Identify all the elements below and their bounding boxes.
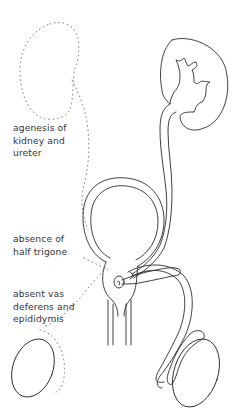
bladder-inner <box>91 186 158 260</box>
label-line: absence of <box>13 233 67 246</box>
verumontanum <box>114 276 124 288</box>
absent-kidney-outline <box>20 23 79 120</box>
urogenital-diagram: agenesis of kidney and ureter absence of… <box>0 0 239 417</box>
label-line: deferens and <box>13 301 75 314</box>
vas-deferens-inner <box>132 270 185 382</box>
label-absent-vas-epididymis: absent vas deferens and epididymis <box>13 288 75 326</box>
label-line: kidney and <box>13 135 67 148</box>
label-agenesis-kidney-ureter: agenesis of kidney and ureter <box>13 122 67 160</box>
bladder-outer <box>83 178 164 266</box>
prostate-left <box>103 262 118 316</box>
ejaculatory-duct-opening <box>117 281 120 285</box>
label-line: epididymis <box>13 313 75 326</box>
label-line: agenesis of <box>13 122 67 135</box>
diagram-drawing <box>0 0 239 417</box>
label-absence-half-trigone: absence of half trigone <box>13 233 67 258</box>
testis-left <box>4 333 62 403</box>
label-line: ureter <box>13 147 67 160</box>
absent-ureter-outline <box>72 80 89 230</box>
testis-right <box>164 333 227 413</box>
label-line: absent vas <box>13 288 75 301</box>
label-line: half trigone <box>13 246 67 259</box>
absent-epididymis-outline <box>40 330 65 392</box>
absent-trigone-outline <box>84 258 108 270</box>
